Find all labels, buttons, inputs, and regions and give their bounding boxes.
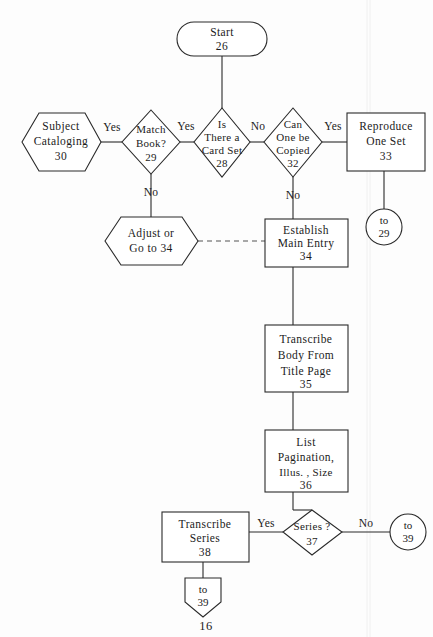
transcribe-body-line1: Transcribe bbox=[280, 333, 333, 345]
card-set-line4: 28 bbox=[216, 157, 228, 169]
node-main-entry[interactable]: Establish Main Entry 34 bbox=[265, 219, 348, 267]
node-list-pagination[interactable]: List Pagination, Illus. , Size 36 bbox=[265, 430, 348, 492]
match-book-line3: 29 bbox=[145, 151, 157, 163]
page-number: 16 bbox=[199, 619, 212, 633]
edge-label-cardset-no: No bbox=[251, 120, 266, 132]
node-transcribe-body[interactable]: Transcribe Body From Title Page 35 bbox=[265, 325, 348, 392]
edge-label-match-no: No bbox=[144, 186, 159, 198]
transcribe-body-line3: Title Page bbox=[281, 365, 332, 378]
node-reproduce-one-set[interactable]: Reproduce One Set 33 bbox=[347, 113, 425, 171]
node-connector-to-29[interactable]: to 29 bbox=[366, 209, 402, 245]
to-39-bottom-line2: 39 bbox=[198, 596, 210, 608]
main-entry-line1: Establish bbox=[283, 224, 329, 236]
card-set-line3: Card Set bbox=[202, 144, 243, 156]
edge-label-series-yes: Yes bbox=[257, 517, 275, 529]
node-connector-to-39-bottom[interactable]: to 39 bbox=[185, 578, 221, 617]
node-transcribe-series[interactable]: Transcribe Series 38 bbox=[162, 512, 249, 562]
series-shape bbox=[283, 510, 342, 555]
to-39-right-line1: to bbox=[404, 519, 413, 531]
series-line1: Series ? bbox=[294, 520, 331, 532]
match-book-line2: Book? bbox=[136, 137, 166, 149]
flowchart-container: Start 26 Subject Cataloging 30 Match Boo… bbox=[0, 0, 433, 637]
card-set-line1: Is bbox=[218, 118, 227, 130]
can-copy-line1: Can bbox=[284, 118, 303, 130]
flowchart-diagram: Start 26 Subject Cataloging 30 Match Boo… bbox=[0, 0, 433, 637]
list-pagination-line1: List bbox=[296, 436, 316, 448]
subject-cataloging-line2: Cataloging bbox=[34, 135, 88, 148]
transcribe-body-line2: Body From bbox=[278, 349, 334, 362]
to-29-line1: to bbox=[380, 214, 389, 226]
can-copy-line2: One be bbox=[276, 131, 309, 143]
can-copy-line4: 32 bbox=[287, 157, 299, 169]
transcribe-series-line2: Series bbox=[190, 532, 221, 544]
to-29-line2: 29 bbox=[379, 227, 391, 239]
adjust-line1: Adjust or bbox=[128, 227, 175, 240]
start-label-line1: Start bbox=[210, 26, 234, 38]
transcribe-series-line3: 38 bbox=[199, 546, 211, 558]
adjust-line2: Go to 34 bbox=[129, 242, 172, 254]
node-can-copy[interactable]: Can One be Copied 32 bbox=[264, 108, 322, 177]
to-39-bottom-line1: to bbox=[199, 583, 208, 595]
node-series[interactable]: Series ? 37 bbox=[283, 510, 342, 555]
edge-label-cancopy-no: No bbox=[286, 189, 301, 201]
transcribe-series-line1: Transcribe bbox=[179, 518, 232, 530]
can-copy-line3: Copied bbox=[276, 144, 310, 156]
node-adjust[interactable]: Adjust or Go to 34 bbox=[105, 217, 198, 265]
node-match-book[interactable]: Match Book? 29 bbox=[122, 110, 180, 174]
reproduce-line1: Reproduce bbox=[359, 120, 412, 133]
start-label-line2: 26 bbox=[216, 40, 228, 52]
node-connector-to-39-right[interactable]: to 39 bbox=[390, 514, 426, 550]
reproduce-line3: 33 bbox=[380, 150, 392, 162]
to-39-right-line2: 39 bbox=[403, 532, 415, 544]
list-pagination-line3: Illus. , Size bbox=[279, 466, 332, 478]
list-pagination-line2: Pagination, bbox=[278, 451, 334, 464]
edge-label-series-no: No bbox=[359, 517, 374, 529]
list-pagination-line4: 36 bbox=[300, 479, 312, 491]
reproduce-line2: One Set bbox=[366, 135, 406, 147]
series-line2: 37 bbox=[306, 535, 318, 547]
edge-label-cancopy-yes: Yes bbox=[324, 120, 342, 132]
main-entry-line2: Main Entry bbox=[278, 237, 335, 250]
subject-cataloging-line1: Subject bbox=[42, 120, 80, 133]
node-subject-cataloging[interactable]: Subject Cataloging 30 bbox=[22, 113, 101, 171]
node-start[interactable]: Start 26 bbox=[177, 22, 267, 56]
edge-label-subject-yes: Yes bbox=[103, 121, 121, 133]
subject-cataloging-line3: 30 bbox=[55, 150, 67, 162]
node-card-set[interactable]: Is There a Card Set 28 bbox=[194, 108, 250, 177]
transcribe-body-line4: 35 bbox=[300, 378, 312, 390]
edge-label-match-yes: Yes bbox=[177, 120, 195, 132]
card-set-line2: There a bbox=[204, 131, 239, 143]
main-entry-line3: 34 bbox=[300, 250, 312, 262]
match-book-line1: Match bbox=[136, 123, 166, 135]
